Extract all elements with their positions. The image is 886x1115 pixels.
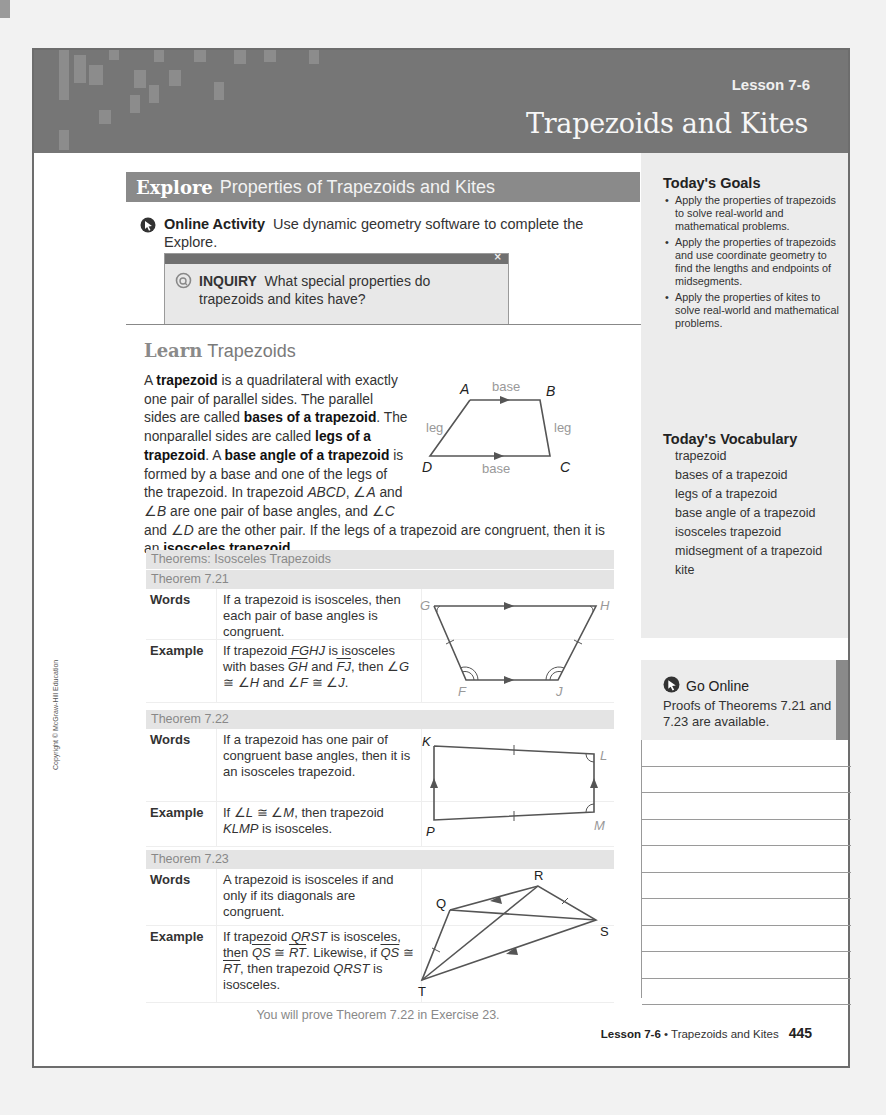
- svg-text:H: H: [600, 598, 610, 613]
- cursor-online-icon: [140, 217, 156, 237]
- footer-lesson: Lesson 7-6: [601, 1028, 661, 1040]
- trapezoid-abcd-figure: A B C D base base leg leg: [414, 372, 594, 482]
- textbook-page: Lesson 7-6 Trapezoids and Kites Explore …: [32, 48, 850, 1068]
- theorem-7-22-title: Theorem 7.22: [146, 710, 614, 729]
- inquiry-label: INQUIRY: [199, 273, 257, 289]
- footer-title: Trapezoids and Kites: [671, 1028, 779, 1040]
- words-label: Words: [146, 589, 216, 639]
- theorem-footnote: You will prove Theorem 7.22 in Exercise …: [144, 1008, 612, 1022]
- theorem-7-23-words: A trapezoid is isosceles if and only if …: [216, 869, 422, 925]
- close-icon[interactable]: ×: [494, 251, 502, 262]
- goal-item: Apply the properties of trapezoids to so…: [675, 194, 843, 233]
- theorems-box-header: Theorems: Isosceles Trapezoids: [146, 550, 614, 569]
- theorems-title: Theorems: Isosceles Trapezoids: [146, 550, 614, 569]
- vocab-item: base angle of a trapezoid: [663, 506, 843, 521]
- svg-text:R: R: [534, 868, 543, 883]
- learn-section-header: LearnTrapezoids: [144, 340, 296, 362]
- words-label: Words: [146, 729, 216, 801]
- vocab-item: legs of a trapezoid: [663, 487, 843, 502]
- todays-goals: Today's Goals Apply the properties of tr…: [663, 175, 843, 333]
- theorem-7-23-title: Theorem 7.23: [146, 850, 614, 869]
- svg-text:P: P: [426, 824, 435, 839]
- explore-title: Properties of Trapezoids and Kites: [220, 177, 495, 198]
- vocab-title: Today's Vocabulary: [663, 431, 843, 447]
- theorem-7-21-words: If a trapezoid is isosceles, then each p…: [216, 589, 422, 639]
- words-label: Words: [146, 869, 216, 925]
- svg-text:D: D: [422, 459, 432, 475]
- theorem-7-23-example: If trapezoid QRST is isosceles, then QS …: [216, 926, 422, 1002]
- page-footer: Lesson 7-6 • Trapezoids and Kites445: [601, 1025, 812, 1041]
- svg-text:base: base: [482, 461, 510, 476]
- explore-section-header: Explore Properties of Trapezoids and Kit…: [126, 172, 640, 202]
- svg-text:L: L: [600, 748, 607, 763]
- go-online-box[interactable]: Go Online Proofs of Theorems 7.21 and 7.…: [641, 660, 848, 740]
- learn-title: Trapezoids: [207, 341, 295, 361]
- go-online-text: Proofs of Theorems 7.21 and 7.23 are ava…: [663, 698, 833, 730]
- svg-text:C: C: [560, 459, 571, 475]
- inquiry-box: × INQUIRY What special properties do tra…: [164, 253, 509, 325]
- vocab-item: kite: [663, 563, 843, 578]
- svg-text:T: T: [418, 984, 426, 998]
- svg-text:G: G: [420, 598, 430, 613]
- online-activity[interactable]: Online Activity Use dynamic geometry sof…: [140, 215, 630, 251]
- lesson-banner: Lesson 7-6 Trapezoids and Kites: [34, 50, 848, 153]
- svg-text:leg: leg: [554, 420, 571, 435]
- svg-text:A: A: [459, 381, 469, 397]
- theorem-7-21-title: Theorem 7.21: [146, 570, 614, 589]
- lesson-title: Trapezoids and Kites: [526, 108, 808, 139]
- svg-text:B: B: [546, 383, 555, 399]
- page-number: 445: [789, 1025, 812, 1041]
- goals-title: Today's Goals: [663, 175, 843, 191]
- inquiry-titlebar: ×: [165, 254, 508, 264]
- learn-keyword: Learn: [144, 340, 202, 361]
- theorem-7-22-words: If a trapezoid has one pair of congruent…: [216, 729, 422, 801]
- explore-keyword: Explore: [136, 177, 213, 198]
- example-label: Example: [146, 802, 216, 846]
- goal-item: Apply the properties of kites to solve r…: [675, 291, 843, 330]
- goal-item: Apply the properties of trapezoids and u…: [675, 236, 843, 288]
- vocab-item: isosceles trapezoid: [663, 525, 843, 540]
- todays-vocabulary: Today's Vocabulary trapezoid bases of a …: [663, 431, 843, 578]
- vocab-item: bases of a trapezoid: [663, 468, 843, 483]
- trapezoid-qrst-figure: R Q S T: [404, 868, 614, 998]
- svg-text:J: J: [555, 684, 563, 699]
- cursor-online-icon: [663, 676, 680, 696]
- example-label: Example: [146, 640, 216, 702]
- online-activity-label: Online Activity: [164, 216, 265, 232]
- theorem-7-22-example: If ∠L ≅ ∠M, then trapezoid KLMP is isosc…: [216, 802, 422, 846]
- lesson-number: Lesson 7-6: [732, 76, 810, 93]
- trapezoid-fghj-figure: G H F J: [404, 590, 614, 705]
- sidebar-goals-vocab: Today's Goals Apply the properties of tr…: [641, 153, 848, 638]
- svg-text:S: S: [600, 924, 609, 939]
- svg-text:base: base: [492, 379, 520, 394]
- vocab-item: trapezoid: [663, 449, 843, 464]
- section-divider: [126, 324, 642, 325]
- svg-text:F: F: [458, 684, 467, 699]
- svg-text:M: M: [594, 818, 605, 833]
- go-online-title: Go Online: [686, 678, 749, 694]
- trapezoid-klmp-figure: K L M P: [404, 730, 614, 840]
- svg-text:Q: Q: [436, 896, 446, 911]
- svg-text:K: K: [422, 734, 432, 749]
- inquiry-icon: [175, 272, 192, 293]
- go-online-tab: [836, 660, 848, 740]
- page-corner-mark: [0, 0, 10, 18]
- theorem-7-21-example: If trapezoid FGHJ is isosceles with base…: [216, 640, 422, 702]
- copyright-notice: Copyright © McGraw-Hill Education: [52, 660, 59, 770]
- svg-text:leg: leg: [426, 420, 443, 435]
- example-label: Example: [146, 926, 216, 1002]
- vocab-item: midsegment of a trapezoid: [663, 544, 843, 559]
- notes-lines[interactable]: [641, 740, 851, 998]
